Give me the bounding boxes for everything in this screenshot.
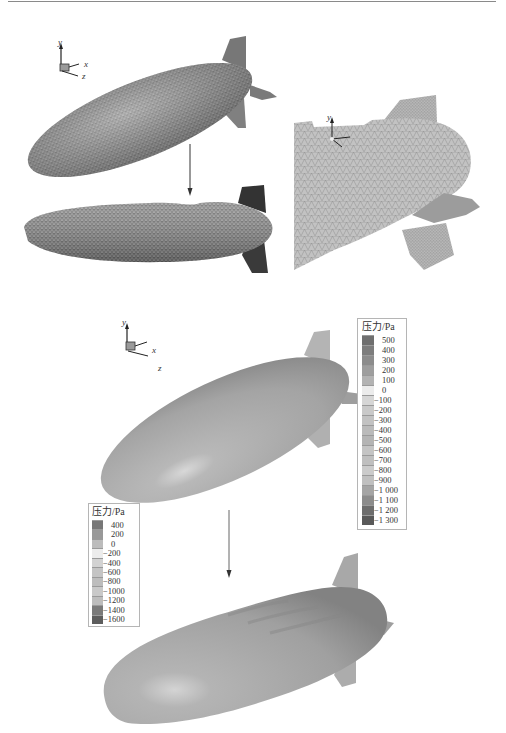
legend-tick-label: −1 000 <box>374 486 398 495</box>
legend-swatch <box>362 405 374 415</box>
legend-swatch <box>362 455 374 465</box>
legend-tick-label: −200 <box>374 406 392 415</box>
legend-swatch <box>92 586 103 595</box>
legend-tick-label: −1400 <box>103 606 125 615</box>
legend-tick-label: −600 <box>374 446 392 455</box>
page-top-rule <box>8 1 496 2</box>
legend-swatch <box>362 425 374 435</box>
legend-tick-label: −1200 <box>103 596 125 605</box>
legend-swatch <box>362 365 374 375</box>
legend-colorbar: 4002000−200−400−600−800−1000−1200−1400−1… <box>92 520 140 624</box>
legend-swatch <box>92 548 103 557</box>
airship-pressure-deformed <box>98 545 418 733</box>
legend-tick-label: −1 200 <box>374 506 398 515</box>
legend-tick-label: −700 <box>374 456 392 465</box>
legend-swatch <box>362 395 374 405</box>
legend-tick-label: −1 300 <box>374 516 398 525</box>
legend-swatch <box>362 385 374 395</box>
legend-tick-label: −400 <box>103 559 121 568</box>
legend-swatch <box>362 475 374 485</box>
legend-swatch <box>362 495 374 505</box>
legend-tick-label: −200 <box>103 549 121 558</box>
legend-tick-label: 200 <box>111 530 124 539</box>
legend-tick-label: −800 <box>103 577 121 586</box>
legend-tick-label: 300 <box>382 356 395 365</box>
legend-title: 压力/Pa <box>92 507 125 517</box>
legend-swatch <box>362 415 374 425</box>
legend-swatch <box>362 355 374 365</box>
airship-mesh-initial <box>0 30 290 180</box>
legend-swatch <box>362 465 374 475</box>
legend-tick-label: 500 <box>382 336 395 345</box>
legend-tick-label: −1600 <box>103 615 125 624</box>
legend-tick-label: 0 <box>111 540 115 549</box>
legend-tick-label: −300 <box>374 416 392 425</box>
legend-tick-label: 100 <box>382 376 395 385</box>
legend-swatch <box>362 345 374 355</box>
legend-swatch <box>92 605 103 614</box>
legend-swatch <box>362 335 374 345</box>
legend-swatch <box>362 445 374 455</box>
legend-tick-label: 400 <box>111 521 124 530</box>
legend-swatch <box>362 505 374 515</box>
axis-y-label: y <box>327 113 331 122</box>
pressure-legend-initial: 压力/Pa 5004003002001000−100−200−300−400−5… <box>357 318 407 530</box>
legend-tick-label: −400 <box>374 426 392 435</box>
legend-swatch <box>92 596 103 605</box>
legend-tick-label: −900 <box>374 476 392 485</box>
legend-tick-label: −1 100 <box>374 496 398 505</box>
legend-tick-label: 400 <box>382 346 395 355</box>
legend-swatch <box>362 515 374 525</box>
legend-tick-label: −600 <box>103 568 121 577</box>
airship-pressure-initial <box>80 320 380 505</box>
legend-swatch <box>362 435 374 445</box>
legend-tick-label: 200 <box>382 366 395 375</box>
legend-swatch <box>92 529 103 538</box>
legend-tick-label: 0 <box>382 386 386 395</box>
legend-title: 压力/Pa <box>362 322 395 332</box>
legend-tick-label: −800 <box>374 466 392 475</box>
legend-swatch <box>362 375 374 385</box>
legend-swatch <box>92 539 103 548</box>
legend-swatch <box>92 567 103 576</box>
legend-swatch <box>92 520 103 529</box>
pressure-legend-deformed: 压力/Pa 4002000−200−400−600−800−1000−1200−… <box>88 503 140 627</box>
airship-tail-mesh-closeup <box>294 75 494 275</box>
legend-tick-label: −500 <box>374 436 392 445</box>
legend-swatch <box>92 577 103 586</box>
legend-swatch <box>362 485 374 495</box>
legend-tick-label: −1000 <box>103 587 125 596</box>
legend-swatch <box>92 615 103 624</box>
legend-swatch <box>92 558 103 567</box>
legend-colorbar: 5004003002001000−100−200−300−400−500−600… <box>362 335 406 525</box>
airship-mesh-deformed <box>20 185 285 275</box>
legend-tick-label: −100 <box>374 396 392 405</box>
